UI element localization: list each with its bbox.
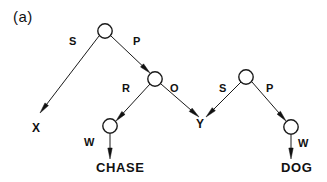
graph-node-n1 — [98, 24, 112, 38]
arc-label-a_p2: P — [266, 83, 274, 94]
terminal-label-t_x: X — [32, 122, 40, 134]
arc-label-a_w2: W — [298, 138, 309, 149]
arrowhead-e_r — [116, 111, 125, 121]
terminal-label-t_chase: CHASE — [96, 161, 145, 174]
figure-panel-a: (a) SPROSPWW XYCHASEDOG — [0, 0, 327, 182]
arc-label-a_o: O — [170, 83, 179, 94]
graph-node-n5 — [284, 120, 298, 134]
graph-node-n3 — [103, 119, 117, 133]
arrowhead-e_s1 — [40, 103, 48, 113]
edges-group — [46, 36, 291, 150]
arrowhead-e_p2 — [277, 111, 286, 121]
arc-label-a_p1: P — [133, 36, 141, 47]
arrowheads-group — [40, 64, 293, 159]
panel-label: (a) — [13, 9, 33, 24]
arrowhead-e_w1 — [108, 148, 112, 159]
diagram-canvas — [0, 0, 327, 182]
arc-label-a_r: R — [122, 83, 130, 94]
arrowhead-e_p1 — [141, 64, 150, 73]
arc-label-a_w1: W — [84, 137, 95, 148]
arrowhead-e_o — [189, 108, 199, 117]
arc-label-a_s2: S — [219, 83, 227, 94]
graph-node-n4 — [239, 70, 253, 84]
arc-label-a_s1: S — [69, 36, 77, 47]
graph-node-n2 — [148, 72, 162, 86]
terminal-label-t_y: Y — [196, 118, 204, 130]
terminal-label-t_dog: DOG — [281, 161, 312, 174]
arrowhead-e_s2 — [206, 108, 215, 117]
arrowhead-e_w2 — [289, 148, 293, 159]
edge-e_s2 — [213, 82, 241, 110]
